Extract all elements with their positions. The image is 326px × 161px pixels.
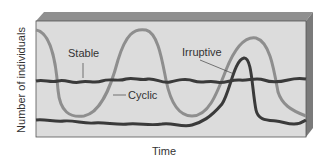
cyclic-label: Cyclic — [128, 89, 158, 101]
population-patterns-diagram: Stable Cyclic Irruptive Time Number of i… — [0, 0, 326, 161]
x-axis-label: Time — [152, 145, 176, 157]
box-top-face — [36, 12, 313, 21]
irruptive-label: Irruptive — [182, 46, 222, 58]
y-axis-label: Number of individuals — [15, 27, 27, 133]
box-side-face — [306, 12, 313, 137]
stable-label: Stable — [68, 47, 99, 59]
